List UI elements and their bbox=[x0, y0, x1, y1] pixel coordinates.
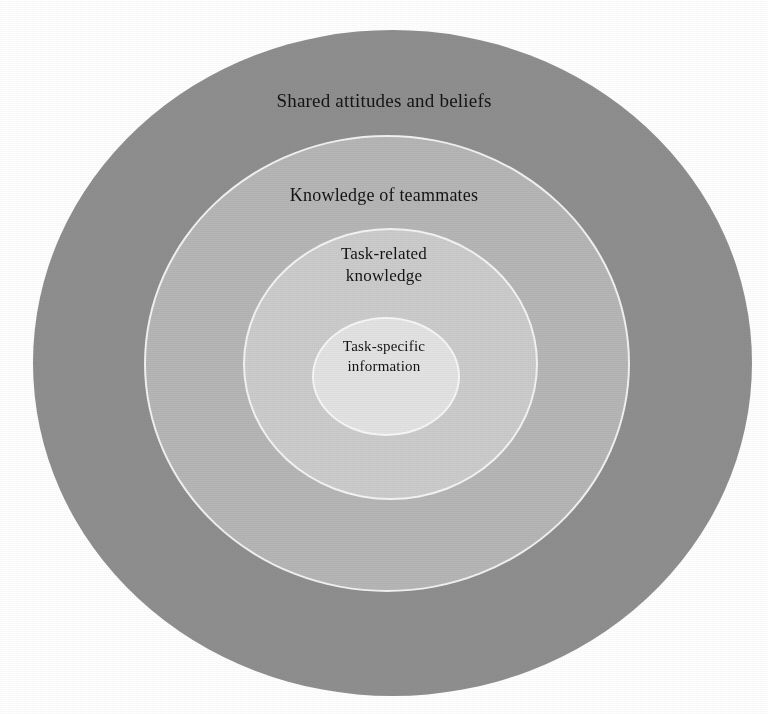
ring-label-knowledge-of-teammates: Knowledge of teammates bbox=[0, 184, 768, 208]
concentric-circle-diagram: Shared attitudes and beliefs Knowledge o… bbox=[0, 0, 768, 714]
ring-label-task-related-knowledge: Task-related knowledge bbox=[0, 243, 768, 288]
ring-label-shared-attitudes-and-beliefs: Shared attitudes and beliefs bbox=[0, 88, 768, 113]
ring-label-task-specific-information: Task-specific information bbox=[0, 337, 768, 377]
